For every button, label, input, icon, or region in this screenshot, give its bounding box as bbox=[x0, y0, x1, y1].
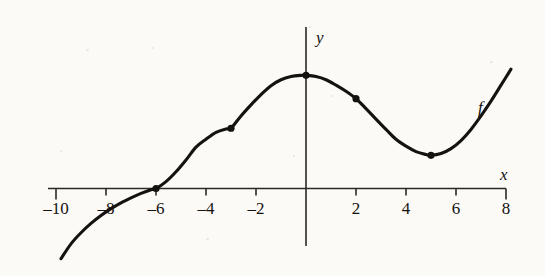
marked-point-x5 bbox=[427, 152, 434, 159]
paper-speck bbox=[490, 61, 493, 63]
marked-point-x2 bbox=[352, 95, 359, 102]
x-axis-label: x bbox=[500, 166, 508, 183]
paper-speck bbox=[293, 155, 295, 157]
x-tick-label-8: 8 bbox=[502, 200, 511, 217]
marked-point-x-6 bbox=[152, 185, 159, 192]
paper-speck bbox=[60, 150, 62, 152]
paper-speck bbox=[331, 95, 333, 97]
x-tick-label--2: –2 bbox=[248, 200, 265, 217]
function-graph-figure: –10–8–6–4–22468 y x f bbox=[0, 0, 545, 276]
marked-point-x-3 bbox=[227, 125, 234, 132]
x-tick-label--8: –8 bbox=[98, 200, 115, 217]
x-tick-label--10: –10 bbox=[43, 200, 69, 217]
x-tick-label--6: –6 bbox=[148, 200, 165, 217]
marked-points-group bbox=[152, 72, 434, 192]
x-tick-label-6: 6 bbox=[452, 200, 461, 217]
x-axis-ticks bbox=[56, 189, 506, 200]
paper-speck bbox=[206, 238, 209, 240]
y-axis-label: y bbox=[316, 29, 324, 46]
x-tick-label--4: –4 bbox=[198, 200, 215, 217]
paper-speck bbox=[309, 26, 311, 28]
x-tick-label-2: 2 bbox=[352, 200, 361, 217]
graph-canvas bbox=[0, 0, 545, 276]
curve-label-f: f bbox=[478, 99, 483, 116]
x-tick-label-4: 4 bbox=[402, 200, 411, 217]
function-curve bbox=[61, 69, 511, 258]
marked-point-x0 bbox=[302, 72, 309, 79]
paper-speck bbox=[152, 47, 154, 49]
paper-speck bbox=[86, 49, 89, 51]
